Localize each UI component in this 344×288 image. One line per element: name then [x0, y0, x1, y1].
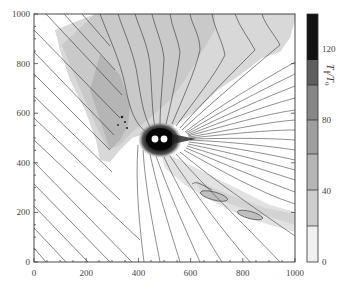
marker-left — [152, 136, 159, 143]
contour-figure: 0 200 400 600 800 1000 0 200 400 600 800… — [0, 0, 344, 288]
y-tick-label: 800 — [17, 59, 31, 69]
colorbar-label: T∥/T0 — [323, 64, 336, 86]
x-tick-label: 0 — [32, 268, 37, 278]
x-tick-label: 600 — [184, 268, 198, 278]
colorbar: 0 40 80 120 T∥/T0 — [307, 14, 336, 267]
x-tick-label: 800 — [236, 268, 250, 278]
y-tick-label: 400 — [17, 158, 31, 168]
y-tick-label: 0 — [26, 257, 31, 267]
colorbar-tick-label: 80 — [322, 115, 332, 125]
colorbar-tick-label: 120 — [322, 44, 336, 54]
plot-area — [34, 14, 295, 262]
x-tick-label: 400 — [132, 268, 146, 278]
x-tick-label: 200 — [79, 268, 93, 278]
y-tick-labels: 0 200 400 600 800 1000 — [12, 9, 31, 267]
y-tick-label: 600 — [17, 108, 31, 118]
svg-text:T∥/T0: T∥/T0 — [323, 64, 336, 86]
colorbar-tick-label: 0 — [322, 257, 327, 267]
marker-right — [161, 136, 168, 143]
y-tick-label: 1000 — [12, 9, 31, 19]
x-tick-labels: 0 200 400 600 800 1000 — [32, 268, 305, 278]
x-tick-label: 1000 — [286, 268, 305, 278]
y-tick-label: 200 — [17, 207, 31, 217]
colorbar-tick-label: 40 — [322, 186, 332, 196]
